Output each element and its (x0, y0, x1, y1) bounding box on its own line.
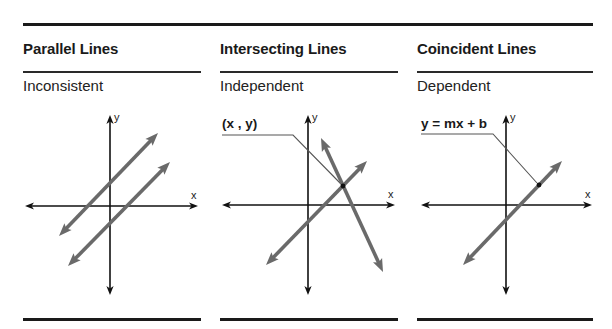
bottom-rule (220, 318, 398, 321)
column-title: Coincident Lines (417, 40, 536, 57)
column-coincident-lines: Coincident Lines Dependent (417, 0, 593, 329)
column-parallel-lines: Parallel Lines Inconsistent (23, 0, 201, 329)
column-intersecting-lines: Intersecting Lines Independent (220, 0, 398, 329)
column-title: Parallel Lines (23, 40, 118, 57)
column-subtitle: Inconsistent (23, 77, 103, 94)
header-divider (220, 71, 398, 73)
column-title: Intersecting Lines (220, 40, 347, 57)
column-subtitle: Dependent (417, 77, 490, 94)
column-subtitle: Independent (220, 77, 303, 94)
header-divider (23, 71, 201, 73)
header-divider (417, 71, 593, 73)
bottom-rule (23, 318, 201, 321)
bottom-rule (417, 318, 593, 321)
